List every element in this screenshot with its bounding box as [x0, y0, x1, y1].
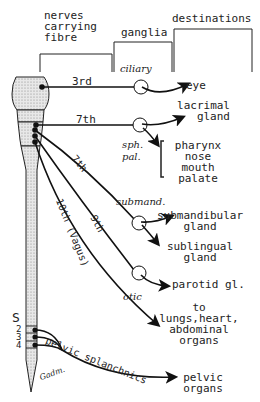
dest-vagus-organs-label: to lungs,heart, abdominal organs — [155, 302, 243, 346]
dest-parotid-label: parotid gl. — [172, 279, 245, 290]
sacral-label: S — [12, 312, 20, 323]
dest-sphpal-list: pharynx nose mouth palate — [166, 140, 230, 184]
nerve-7th-label: 7th — [76, 114, 96, 125]
ganglion-otic-label: otic — [123, 291, 142, 302]
dest-pelvic-organs-label: pelvic organs — [178, 372, 228, 394]
dest-sublingual-label: sublingual gland — [158, 241, 242, 263]
dest-lacrimal-label: lacrimal gland — [158, 100, 230, 122]
sacral-segments: 2 3 4 — [16, 325, 21, 349]
ganglion-sph-label: sph. — [122, 139, 143, 150]
dest-submandibular-label: submandibular gland — [148, 210, 252, 232]
ganglion-submand-label: submand. — [116, 196, 165, 207]
header-ganglia-label: ganglia — [121, 27, 167, 38]
header-nerves-label: nerves carrying fibre — [44, 10, 97, 43]
header-destinations-label: destinations — [172, 13, 251, 24]
nerve-3rd-label: 3rd — [72, 76, 92, 87]
dest-eye-label: eye — [186, 80, 206, 91]
destination-bracket — [161, 141, 164, 177]
ganglion-pal-label: pal. — [122, 151, 141, 162]
ganglion-ciliary-label: ciliary — [120, 63, 152, 74]
